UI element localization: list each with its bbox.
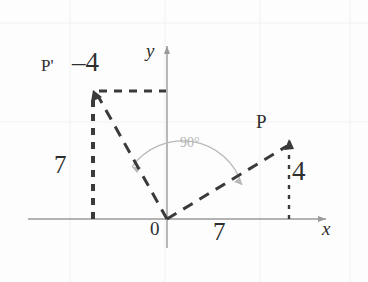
x-axis [28, 216, 326, 222]
axis-label-origin: 0 [150, 219, 160, 238]
vector-op [167, 140, 294, 219]
label-p: P [256, 112, 267, 131]
figure-canvas: P' –4 7 P 4 7 90° y x 0 [0, 0, 368, 282]
label-p-prime: P' [41, 57, 54, 74]
label-p-prime-y-value: 7 [54, 152, 67, 177]
label-p-y-value: 4 [292, 158, 306, 185]
label-p-prime-x-value: –4 [72, 49, 99, 76]
label-p-x-value: 7 [213, 219, 226, 244]
axis-label-y: y [146, 41, 154, 60]
label-angle: 90° [180, 136, 200, 150]
vector-op-prime [91, 90, 167, 219]
axis-label-x: x [322, 219, 330, 238]
